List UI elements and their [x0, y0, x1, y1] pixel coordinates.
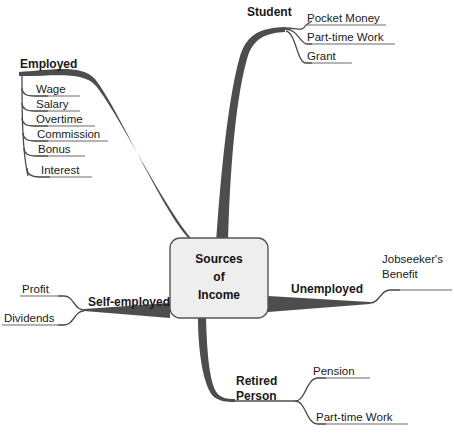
branch-student-stem [216, 27, 285, 245]
branch-label-unemployed: Unemployed [291, 282, 363, 296]
center-node-line3: Income [198, 288, 240, 302]
child-label-grant: Grant [307, 50, 337, 62]
child-label-jobseekers-benefit-line2: Benefit [382, 268, 419, 280]
branch-retired-stem [198, 318, 235, 402]
branch-label-employed: Employed [20, 57, 77, 71]
branch-unemployed-stem [268, 296, 370, 312]
child-label-parttime-work-student: Part-time Work [307, 31, 384, 43]
child-label-interest: Interest [41, 164, 80, 176]
child-label-parttime-work-retired: Part-time Work [316, 411, 393, 423]
child-label-profit: Profit [22, 283, 50, 295]
child-label-jobseekers-benefit-line1: Jobseeker's [382, 253, 443, 265]
child-label-wage: Wage [36, 83, 66, 95]
connector-profit [58, 296, 84, 310]
mind-map-diagram: Sources of Income Employed Wage Salary O… [0, 0, 454, 440]
connector-jobseekers-benefit [370, 290, 400, 303]
mind-map-canvas: Sources of Income Employed Wage Salary O… [0, 0, 454, 440]
connector-pension [295, 378, 326, 401]
child-label-bonus: Bonus [38, 143, 71, 155]
branch-label-self-employed: Self-employed [88, 295, 170, 309]
branch-label-student: Student [247, 5, 292, 19]
connector-dividends [58, 311, 84, 325]
child-label-overtime: Overtime [36, 113, 83, 125]
child-label-pension: Pension [313, 365, 355, 377]
child-label-dividends: Dividends [4, 312, 55, 324]
child-label-pocket-money: Pocket Money [307, 12, 380, 24]
branch-label-retired-line1: Retired [236, 374, 277, 388]
center-node-line1: Sources [195, 252, 243, 266]
child-label-salary: Salary [36, 98, 69, 110]
center-node-line2: of [213, 270, 225, 284]
child-label-commission: Commission [37, 128, 100, 140]
